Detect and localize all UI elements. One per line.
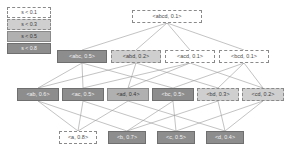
lattice-node-label: <cd, 0.2> xyxy=(252,92,275,97)
legend-row-label: s < 0.1 xyxy=(21,10,37,15)
lattice-node-a[interactable]: <a, 0.8> xyxy=(59,131,97,144)
lattice-node-bcd[interactable]: <bcd, 0.1> xyxy=(219,50,269,63)
lattice-edge-cd-c xyxy=(176,101,263,131)
lattice-edge-abc-ab xyxy=(38,63,82,88)
lattice-node-label: <abcd, 0.1> xyxy=(152,14,181,19)
support-threshold-legend: s < 0.1s < 0.3s < 0.5s < 0.8 xyxy=(7,7,51,54)
lattice-node-label: <abc, 0.5> xyxy=(69,54,95,59)
lattice-node-abc[interactable]: <abc, 0.5> xyxy=(57,50,107,63)
lattice-edge-bcd-cd xyxy=(244,63,263,88)
lattice-node-label: <a, 0.8> xyxy=(68,135,88,140)
lattice-edge-bc-b xyxy=(127,101,173,131)
lattice-edge-cd-d xyxy=(225,101,263,131)
lattice-edge-ab-a xyxy=(38,101,78,131)
lattice-edge-ac-c xyxy=(83,101,176,131)
lattice-edge-bcd-bc xyxy=(173,63,244,88)
lattice-edge-abcd-abd xyxy=(136,23,167,50)
lattice-edge-abd-bd xyxy=(136,63,218,88)
lattice-edge-acd-cd xyxy=(190,63,263,88)
lattice-edge-ad-d xyxy=(128,101,225,131)
lattice-node-abd[interactable]: <abd, 0.2> xyxy=(111,50,161,63)
lattice-node-b[interactable]: <b, 0.7> xyxy=(108,131,146,144)
lattice-node-label: <bcd, 0.1> xyxy=(231,54,257,59)
lattice-node-label: <bc, 0.5> xyxy=(162,92,185,97)
lattice-node-c[interactable]: <c, 0.5> xyxy=(157,131,195,144)
lattice-edge-bd-b xyxy=(127,101,218,131)
legend-row-2: s < 0.5 xyxy=(7,31,51,42)
legend-row-label: s < 0.8 xyxy=(21,46,37,51)
legend-row-label: s < 0.3 xyxy=(21,22,37,27)
lattice-node-label: <d, 0.4> xyxy=(215,135,235,140)
lattice-edge-abd-ad xyxy=(128,63,136,88)
lattice-node-label: <abd, 0.2> xyxy=(123,54,149,59)
lattice-node-d[interactable]: <d, 0.4> xyxy=(206,131,244,144)
lattice-node-label: <ab, 0.6> xyxy=(26,92,49,97)
lattice-node-acd[interactable]: <acd, 0.1> xyxy=(165,50,215,63)
lattice-node-label: <b, 0.7> xyxy=(117,135,137,140)
lattice-node-ad[interactable]: <ad, 0.4> xyxy=(107,88,149,101)
lattice-node-ab[interactable]: <ab, 0.6> xyxy=(17,88,59,101)
lattice-diagram: s < 0.1s < 0.3s < 0.5s < 0.8 <abcd, 0.1>… xyxy=(0,0,293,156)
lattice-node-label: <c, 0.5> xyxy=(166,135,186,140)
lattice-node-label: <ac, 0.5> xyxy=(72,92,95,97)
lattice-edge-abcd-abc xyxy=(82,23,167,50)
legend-row-3: s < 0.8 xyxy=(7,43,51,54)
lattice-node-bd[interactable]: <bd, 0.3> xyxy=(197,88,239,101)
lattice-node-label: <bd, 0.3> xyxy=(206,92,229,97)
lattice-edge-bcd-bd xyxy=(218,63,244,88)
legend-row-label: s < 0.5 xyxy=(21,34,37,39)
lattice-node-label: <acd, 0.1> xyxy=(177,54,203,59)
lattice-node-bc[interactable]: <bc, 0.5> xyxy=(152,88,194,101)
lattice-node-abcd[interactable]: <abcd, 0.1> xyxy=(132,10,202,23)
lattice-edge-abc-ac xyxy=(82,63,83,88)
lattice-node-ac[interactable]: <ac, 0.5> xyxy=(62,88,104,101)
legend-row-1: s < 0.3 xyxy=(7,19,51,30)
lattice-edge-ad-a xyxy=(78,101,128,131)
lattice-node-label: <ad, 0.4> xyxy=(116,92,139,97)
lattice-edge-abd-ab xyxy=(38,63,136,88)
lattice-node-cd[interactable]: <cd, 0.2> xyxy=(242,88,284,101)
legend-row-0: s < 0.1 xyxy=(7,7,51,18)
